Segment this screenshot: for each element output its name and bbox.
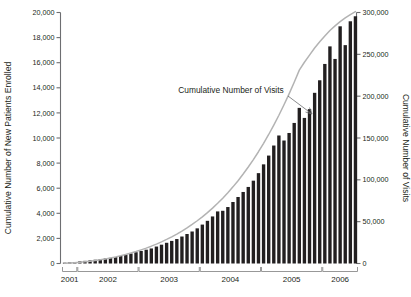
bar (175, 239, 178, 263)
left-axis: 02,0004,0006,0008,00010,00012,00014,0001… (33, 8, 61, 268)
bar (262, 164, 265, 263)
right-axis: 050,000100,000150,000200,000250,000300,0… (357, 8, 389, 268)
right-axis-tick-label: 150,000 (363, 134, 389, 143)
annotation-cumulative-visits: Cumulative Number of Visits (178, 85, 312, 114)
right-axis-tick-label: 100,000 (363, 175, 389, 184)
bar (241, 192, 244, 264)
x-axis-year-brackets: 200120022003200420052006 (61, 267, 358, 284)
left-axis-tick-label: 2,000 (37, 234, 55, 243)
bar (282, 141, 285, 264)
bar (211, 216, 214, 263)
left-axis-tick-label: 18,000 (33, 33, 55, 42)
bar (160, 245, 163, 264)
bar (206, 221, 209, 264)
chart-container: 02,0004,0006,0008,00010,00012,00014,0001… (0, 0, 411, 297)
bar (272, 146, 275, 264)
left-axis-tick-label: 8,000 (37, 159, 55, 168)
left-axis-tick-label: 12,000 (33, 109, 55, 118)
annotation-label: Cumulative Number of Visits (178, 85, 284, 95)
bar (257, 173, 260, 263)
left-axis-tick-label: 0 (51, 259, 55, 268)
left-axis-tick-label: 6,000 (37, 184, 55, 193)
bar (349, 21, 352, 263)
right-axis-title: Cumulative Number of Visits (401, 94, 411, 202)
bar (298, 108, 301, 264)
left-axis-tick-label: 16,000 (33, 58, 55, 67)
bar (303, 118, 306, 264)
bar (287, 133, 290, 264)
year-bracket (78, 267, 138, 272)
bar (180, 237, 183, 264)
year-label: 2001 (61, 275, 79, 284)
year-label: 2006 (331, 275, 349, 284)
left-axis-tick-label: 10,000 (33, 134, 55, 143)
bar (165, 243, 168, 264)
left-axis-tick-label: 20,000 (33, 8, 55, 17)
bar (333, 59, 336, 264)
bar (267, 156, 270, 264)
cumulative-visits-curve (65, 12, 356, 264)
year-bracket (63, 267, 77, 272)
bar (150, 248, 153, 263)
bar (344, 45, 347, 263)
bar (313, 93, 316, 264)
bar (354, 16, 357, 263)
bar (145, 250, 148, 264)
bar (221, 211, 224, 264)
bar (252, 181, 255, 264)
right-axis-tick-label: 250,000 (363, 50, 389, 59)
right-axis-tick-label: 50,000 (363, 217, 385, 226)
bar (139, 251, 142, 264)
bar (323, 64, 326, 264)
left-axis-tick-label: 14,000 (33, 83, 55, 92)
year-label: 2005 (283, 275, 301, 284)
bar (134, 252, 137, 263)
bar (277, 135, 280, 263)
bar (247, 187, 250, 264)
bar (196, 228, 199, 263)
right-axis-tick-label: 200,000 (363, 92, 389, 101)
left-axis-title: Cumulative Number of New Patients Enroll… (3, 62, 13, 235)
bar (185, 234, 188, 263)
chart-svg: 02,0004,0006,0008,00010,00012,00014,0001… (0, 0, 411, 297)
bar (170, 241, 173, 264)
bar (155, 247, 158, 264)
year-label: 2004 (222, 275, 240, 284)
bar (124, 255, 127, 264)
bar (190, 232, 193, 264)
bar-series (63, 16, 357, 263)
bar (328, 46, 331, 263)
year-bracket (200, 267, 260, 272)
year-label: 2002 (99, 275, 117, 284)
line-series (65, 12, 356, 264)
bar (293, 123, 296, 264)
right-axis-tick-label: 0 (363, 259, 367, 268)
bar (338, 26, 341, 263)
year-bracket (323, 267, 358, 272)
bar (226, 207, 229, 263)
year-label: 2003 (160, 275, 178, 284)
year-bracket (262, 267, 322, 272)
bar (318, 80, 321, 263)
bar (119, 256, 122, 264)
bar (236, 197, 239, 264)
left-axis-tick-label: 4,000 (37, 209, 55, 218)
year-bracket (139, 267, 199, 272)
bar (308, 109, 311, 263)
right-axis-tick-label: 300,000 (363, 8, 389, 17)
bar (231, 202, 234, 263)
bar (129, 253, 132, 263)
bar (201, 225, 204, 264)
bar (216, 211, 219, 263)
